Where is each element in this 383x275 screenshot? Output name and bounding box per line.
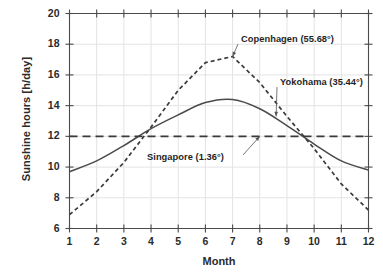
y-tick-label: 6 (38, 222, 60, 234)
x-tick-label: 5 (167, 235, 189, 247)
x-tick-label: 11 (330, 235, 352, 247)
y-tick-label: 8 (38, 191, 60, 203)
x-tick-label: 7 (222, 235, 244, 247)
series-annotation-label: Singapore (1.36°) (147, 152, 224, 162)
y-tick-label: 14 (38, 99, 60, 111)
x-tick-label: 8 (249, 235, 271, 247)
y-tick-label: 20 (38, 7, 60, 19)
axis-frame (70, 14, 369, 229)
annotation-arrowhead (233, 52, 237, 57)
x-tick-label: 10 (303, 235, 325, 247)
series-annotation-label: Copenhagen (55.68°) (241, 34, 334, 44)
annotation-leader-lines (233, 44, 278, 155)
y-tick-label: 12 (38, 129, 60, 141)
x-tick-label: 1 (59, 235, 81, 247)
x-tick-label: 4 (140, 235, 162, 247)
x-tick-label: 9 (276, 235, 298, 247)
sunshine-hours-chart: Sunshine hours [h/day] Month 68101214161… (0, 0, 383, 275)
y-tick-label: 16 (38, 68, 60, 80)
y-tick-label: 18 (38, 37, 60, 49)
y-tick-label: 10 (38, 160, 60, 172)
annotation-arrowhead (274, 112, 278, 117)
gridlines (70, 14, 369, 229)
x-tick-label: 3 (113, 235, 135, 247)
x-tick-label: 6 (194, 235, 216, 247)
series-annotation-label: Yokohama (35.44°) (280, 77, 363, 87)
x-tick-label: 2 (86, 235, 108, 247)
x-tick-label: 12 (358, 235, 380, 247)
